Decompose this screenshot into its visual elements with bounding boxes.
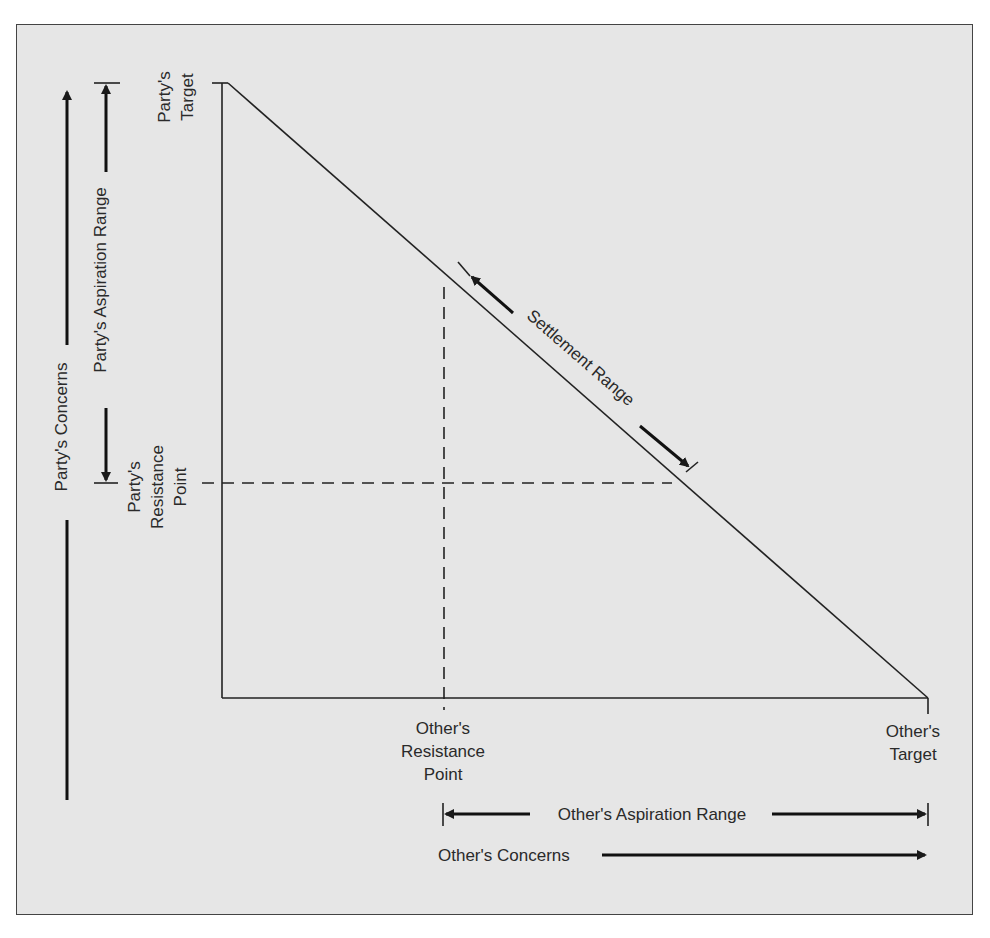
party-resistance-label-line1: Party's: [125, 461, 144, 512]
party-resistance-label-line3: Point: [171, 467, 190, 506]
negotiation-diagram: Settlement Range Party's Concerns Party'…: [0, 0, 990, 938]
other-target-label-line1: Other's: [886, 722, 940, 741]
settlement-arrow-right-icon: [640, 426, 688, 466]
other-resistance-label-line1: Other's: [416, 719, 470, 738]
other-resistance-label-line2: Resistance: [401, 742, 485, 761]
settlement-arrow-left-icon: [472, 277, 513, 313]
settlement-end-tick: [686, 462, 698, 472]
settlement-start-tick: [458, 262, 470, 276]
other-concerns-label: Other's Concerns: [438, 846, 570, 865]
party-resistance-label-line2: Resistance: [148, 445, 167, 529]
party-concerns-label: Party's Concerns: [52, 363, 71, 492]
party-target-label-line2: Target: [178, 73, 197, 121]
contract-line: [228, 83, 928, 698]
party-target-label-line1: Party's: [155, 71, 174, 122]
party-aspiration-range-label: Party's Aspiration Range: [91, 187, 110, 373]
other-aspiration-range-label: Other's Aspiration Range: [558, 805, 746, 824]
other-resistance-label-line3: Point: [424, 765, 463, 784]
other-target-label-line2: Target: [889, 745, 937, 764]
